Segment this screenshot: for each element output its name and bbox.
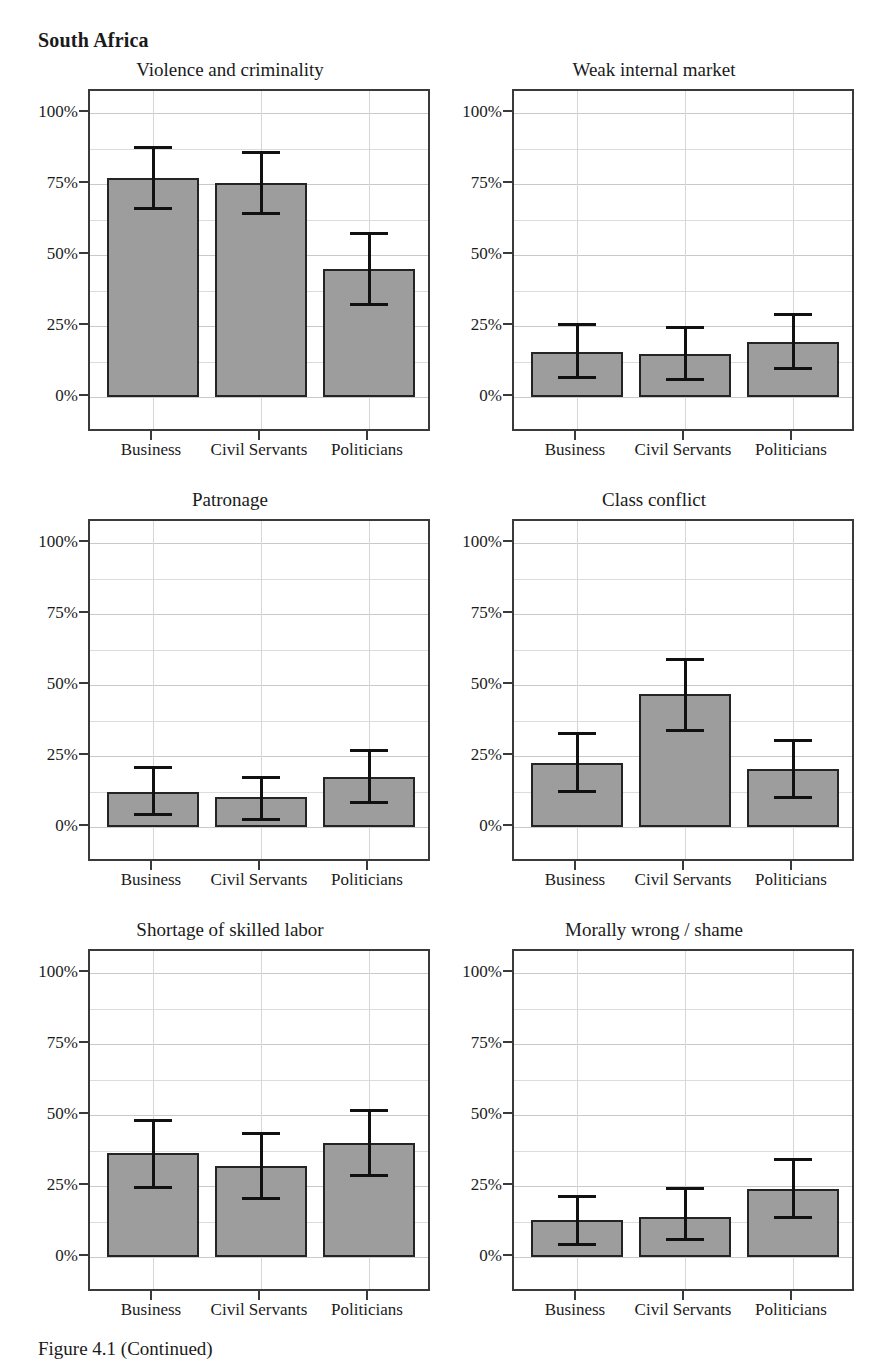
error-bar-stem (368, 749, 371, 804)
error-bar-cap-lower (558, 376, 596, 379)
error-bar-stem (684, 658, 687, 732)
error-bar-cap-lower (350, 1174, 388, 1177)
gridline-horizontal (90, 650, 428, 651)
y-axis-tick-label: 75% (47, 1034, 78, 1051)
gridline-horizontal (514, 291, 852, 292)
x-axis-label-politicians: Politicians (755, 439, 827, 461)
plot-area (88, 89, 430, 431)
gridline-horizontal (514, 1115, 852, 1116)
error-bar-politicians (774, 1158, 812, 1219)
error-bar-cap-lower (666, 1238, 704, 1241)
error-bar-business (134, 146, 172, 210)
y-axis-tick-label: 0% (479, 1247, 502, 1264)
y-axis-tick-mark (503, 1183, 512, 1185)
y-axis-tick-label: 100% (462, 103, 502, 120)
y-axis: 0%25%50%75%100% (454, 949, 512, 1291)
error-bar-stem (684, 1187, 687, 1241)
gridline-horizontal (90, 827, 428, 828)
y-axis-tick-mark (503, 323, 512, 325)
y-axis-tick-label: 25% (47, 316, 78, 333)
plot-area (88, 519, 430, 861)
y-axis-tick-mark (79, 323, 88, 325)
y-axis-tick-mark (503, 1112, 512, 1114)
y-axis-tick-mark (503, 970, 512, 972)
y-axis-tick-mark (79, 682, 88, 684)
plot-area (512, 89, 854, 431)
y-axis-tick-mark (79, 1112, 88, 1114)
error-bar-politicians (350, 749, 388, 804)
gridline-horizontal (514, 255, 852, 256)
y-axis-tick-mark (79, 252, 88, 254)
x-axis-labels: BusinessCivil ServantsPoliticians (512, 439, 854, 463)
panel-title: Violence and criminality (30, 58, 430, 82)
error-bar-cap-lower (350, 303, 388, 306)
x-axis-label-politicians: Politicians (331, 439, 403, 461)
gridline-horizontal (514, 1151, 852, 1152)
y-axis-tick-mark (503, 1041, 512, 1043)
gridline-horizontal (90, 685, 428, 686)
y-axis-tick-label: 75% (471, 174, 502, 191)
y-axis-tick-mark (503, 682, 512, 684)
y-axis-tick-mark (503, 252, 512, 254)
error-bar-stem (576, 732, 579, 793)
y-axis-tick-label: 0% (55, 387, 78, 404)
y-axis-tick-mark (79, 181, 88, 183)
error-bar-civil-servants (666, 326, 704, 381)
error-bar-stem (260, 151, 263, 215)
chart-panel-weak-internal-market: Weak internal market0%25%50%75%100%Busin… (454, 58, 854, 458)
y-axis-tick-mark (79, 394, 88, 396)
y-axis-tick-label: 25% (47, 1176, 78, 1193)
error-bar-cap-upper (774, 739, 812, 742)
gridline-horizontal (90, 543, 428, 544)
error-bar-cap-upper (350, 232, 388, 235)
error-bar-cap-lower (774, 1216, 812, 1219)
gridline-horizontal (514, 184, 852, 185)
x-axis-labels: BusinessCivil ServantsPoliticians (88, 1299, 430, 1323)
y-axis-tick-label: 0% (55, 817, 78, 834)
gridline-horizontal (514, 149, 852, 150)
y-axis-tick-label: 50% (471, 245, 502, 262)
gridline-horizontal (514, 1080, 852, 1081)
y-axis-tick-label: 75% (471, 604, 502, 621)
y-axis-tick-mark (503, 753, 512, 755)
panel-title: Shortage of skilled labor (30, 918, 430, 942)
y-axis-tick-label: 25% (471, 316, 502, 333)
y-axis-tick-label: 75% (471, 1034, 502, 1051)
panel-title: Patronage (30, 488, 430, 512)
x-axis-label-business: Business (121, 439, 181, 461)
y-axis: 0%25%50%75%100% (454, 519, 512, 861)
gridline-horizontal (514, 827, 852, 828)
country-title: South Africa (38, 30, 149, 50)
x-axis-label-civil-servants: Civil Servants (211, 439, 308, 461)
chart-panel-class-conflict: Class conflict0%25%50%75%100%BusinessCiv… (454, 488, 854, 888)
error-bar-business (134, 1119, 172, 1189)
x-axis-labels: BusinessCivil ServantsPoliticians (512, 1299, 854, 1323)
x-axis-label-politicians: Politicians (755, 869, 827, 891)
x-axis-label-business: Business (121, 869, 181, 891)
error-bar-stem (260, 776, 263, 821)
error-bar-cap-upper (666, 326, 704, 329)
x-axis-label-civil-servants: Civil Servants (211, 1299, 308, 1321)
x-axis-label-politicians: Politicians (755, 1299, 827, 1321)
gridline-horizontal (90, 1044, 428, 1045)
x-axis-label-business: Business (121, 1299, 181, 1321)
gridline-horizontal (514, 397, 852, 398)
error-bar-stem (152, 146, 155, 210)
chart-panel-patronage: Patronage0%25%50%75%100%BusinessCivil Se… (30, 488, 430, 888)
plot-area (88, 949, 430, 1291)
error-bar-stem (368, 232, 371, 306)
y-axis: 0%25%50%75%100% (30, 89, 88, 431)
y-axis-tick-label: 100% (462, 533, 502, 550)
gridline-horizontal (90, 397, 428, 398)
x-axis-label-business: Business (545, 439, 605, 461)
error-bar-politicians (774, 739, 812, 799)
error-bar-cap-lower (350, 801, 388, 804)
y-axis-tick-label: 50% (47, 675, 78, 692)
y-axis-tick-mark (503, 611, 512, 613)
y-axis-tick-label: 0% (479, 817, 502, 834)
y-axis-tick-label: 25% (47, 746, 78, 763)
error-bar-cap-upper (350, 749, 388, 752)
error-bar-cap-lower (134, 207, 172, 210)
error-bar-cap-lower (666, 729, 704, 732)
